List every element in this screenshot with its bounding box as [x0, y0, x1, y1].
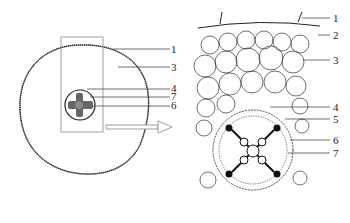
right-label-6: 6 — [333, 134, 339, 146]
right-label-1: 1 — [333, 12, 339, 24]
left-label-1: 1 — [171, 43, 177, 55]
overview-panel: 1 3 4 7 6 — [20, 37, 177, 174]
diagram-canvas: 1 3 4 7 6 — [0, 0, 350, 223]
right-label-2: 2 — [333, 29, 339, 41]
right-label-4: 4 — [333, 101, 339, 113]
right-label-7: 7 — [333, 147, 339, 159]
left-label-6: 6 — [171, 99, 177, 111]
right-label-5: 5 — [333, 113, 339, 125]
left-label-3: 3 — [171, 61, 177, 73]
root-cross-section-figure: 1 3 4 7 6 — [0, 0, 350, 223]
right-label-3: 3 — [333, 54, 339, 66]
magnify-arrow-icon — [106, 121, 172, 133]
cortex-cells — [194, 31, 309, 188]
metaxylem — [240, 138, 266, 164]
magnified-panel: 1 2 3 4 5 6 7 — [194, 12, 339, 190]
epidermis — [198, 22, 320, 28]
